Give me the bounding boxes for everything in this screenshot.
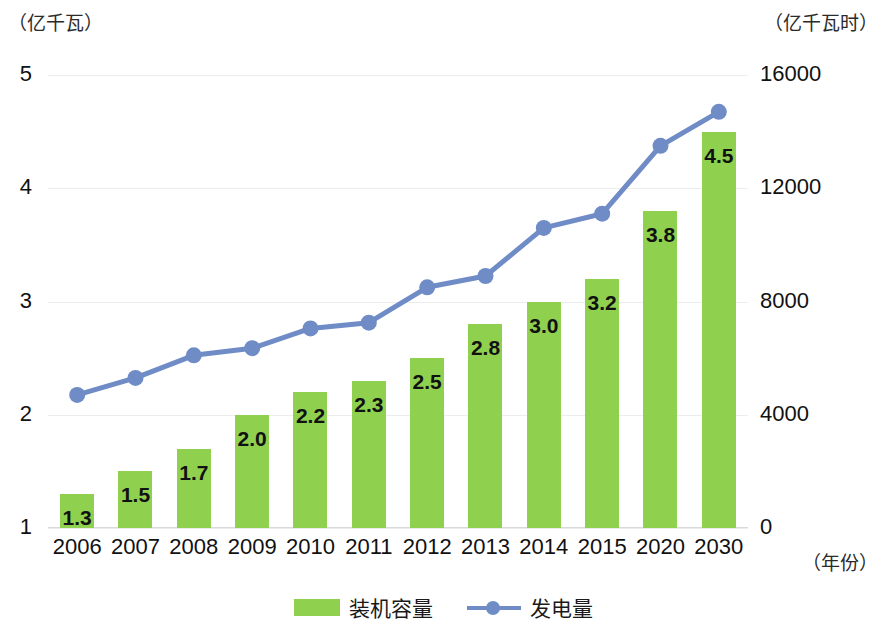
x-axis-tick-label: 2010 [286,534,335,560]
bar-value-label: 2.3 [354,393,383,417]
legend-label-installed-capacity: 装机容量 [349,592,433,622]
x-axis-tick-label: 2020 [636,534,685,560]
x-axis-tick-label: 2013 [461,534,510,560]
y-axis-right-tick-label: 8000 [760,290,809,312]
bar-value-label: 3.2 [588,291,617,315]
y-axis-left-tick-label: 5 [20,63,32,85]
bar-value-label: 3.0 [529,314,558,338]
x-axis-tick-label: 2006 [53,534,102,560]
bar-value-label: 2.8 [471,336,500,360]
bar-value-label: 4.5 [704,144,733,168]
line-marker-swatch-icon [467,599,521,616]
y-axis-right-tick-label: 4000 [760,403,809,425]
bar-value-label: 1.3 [63,506,92,530]
right-axis-unit-label: （亿千瓦时） [764,8,878,35]
bar-value-label: 1.7 [179,461,208,485]
y-axis-left-tick-label: 2 [20,403,32,425]
x-axis-unit-label: （年份） [802,548,878,575]
gridline [48,528,748,529]
legend-label-power-generation: 发电量 [530,592,593,622]
bar-value-label: 1.5 [121,483,150,507]
x-axis-tick-label: 2011 [345,534,392,560]
bar-value-label: 2.0 [238,427,267,451]
left-axis-unit-label: （亿千瓦） [8,8,103,35]
x-axis-tick-label: 2015 [578,534,627,560]
x-axis-tick-label: 2007 [111,534,160,560]
bar-value-label: 3.8 [646,223,675,247]
x-axis-tick-label: 2008 [169,534,218,560]
y-axis-right-tick-label: 12000 [760,176,821,198]
bar-value-label: 2.2 [296,404,325,428]
y-axis-right-tick-label: 16000 [760,63,821,85]
x-axis-tick-label: 2014 [519,534,568,560]
y-axis-left-tick-label: 3 [20,290,32,312]
x-axis-tick-label: 2009 [228,534,277,560]
legend-item-installed-capacity: 装机容量 [294,592,433,622]
bar-swatch-icon [294,599,340,616]
x-axis-tick-label: 2030 [694,534,743,560]
chart-legend: 装机容量 发电量 [0,592,886,622]
bar-value-label: 2.5 [413,370,442,394]
x-axis-tick-label: 2012 [403,534,452,560]
x-axis-ticks: 2006200720082009201020112012201320142015… [48,534,748,568]
bar-value-labels: 1.31.51.72.02.22.32.52.83.03.23.84.5 [48,75,748,528]
legend-item-power-generation: 发电量 [467,592,593,622]
chart-root: （亿千瓦） （亿千瓦时） （年份） 1.31.51.72.02.22.32.52… [0,0,886,627]
y-axis-right-tick-label: 0 [760,516,772,538]
y-axis-left-tick-label: 1 [20,516,32,538]
y-axis-left-tick-label: 4 [20,176,32,198]
plot-area: 1.31.51.72.02.22.32.52.83.03.23.84.5 [48,75,748,528]
